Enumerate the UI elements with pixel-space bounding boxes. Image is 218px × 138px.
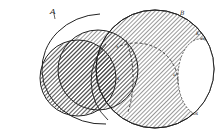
label-a: A <box>49 7 56 16</box>
label-os: os <box>193 111 199 116</box>
diagram-canvas: A B K e u x s os <box>0 0 218 138</box>
label-k: K <box>195 31 200 36</box>
label-u: u <box>173 72 176 77</box>
label-e: e <box>201 36 204 41</box>
right-lens-region <box>178 39 218 115</box>
label-b: B <box>179 9 185 16</box>
